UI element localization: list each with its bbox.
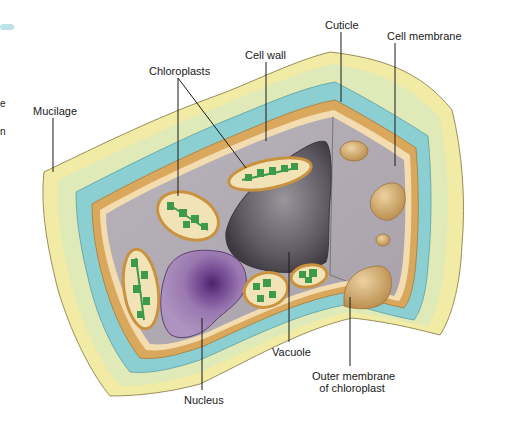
label-cuticle: Cuticle — [325, 19, 359, 31]
cropped-teal-fragment — [0, 24, 14, 30]
label-outer-membrane-line1: Outer membrane — [312, 370, 392, 382]
blob-small — [376, 234, 390, 246]
label-chloroplasts: Chloroplasts — [149, 65, 210, 77]
label-vacuole: Vacuole — [272, 346, 311, 358]
label-outer-membrane-line2: of chloroplast — [312, 382, 392, 394]
label-cell-membrane: Cell membrane — [387, 30, 462, 42]
plant-cell-diagram: e n Mucilage Chloroplasts Cell wall Cuti… — [0, 0, 510, 435]
label-nucleus: Nucleus — [184, 394, 224, 406]
blob-top — [340, 141, 368, 161]
cropped-text-fragment: e — [0, 98, 6, 109]
label-mucilage: Mucilage — [33, 105, 77, 117]
label-outer-membrane-of-chloroplast: Outer membrane of chloroplast — [312, 370, 392, 394]
label-cell-wall: Cell wall — [245, 49, 286, 61]
plant-cell-illustration — [0, 0, 510, 435]
cropped-text-fragment: n — [0, 126, 6, 137]
